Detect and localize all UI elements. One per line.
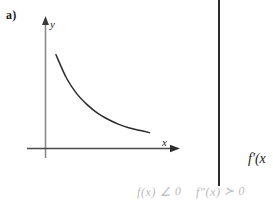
x-axis-arrowhead bbox=[170, 145, 180, 152]
panel-divider bbox=[218, 0, 220, 186]
handwritten-note-right: f″(x) ≻ 0 bbox=[196, 185, 245, 198]
function-graph bbox=[0, 0, 273, 206]
figure-page: a) y x f′(x f(x) ∠ 0 f″(x) ≻ 0 bbox=[0, 0, 273, 206]
y-axis-label: y bbox=[50, 19, 55, 30]
y-axis-arrowhead bbox=[42, 16, 49, 25]
curve-path bbox=[56, 55, 150, 133]
x-axis-label: x bbox=[162, 137, 167, 148]
handwritten-note-left: f(x) ∠ 0 bbox=[137, 185, 182, 198]
derivative-expression: f′(x bbox=[248, 152, 266, 166]
